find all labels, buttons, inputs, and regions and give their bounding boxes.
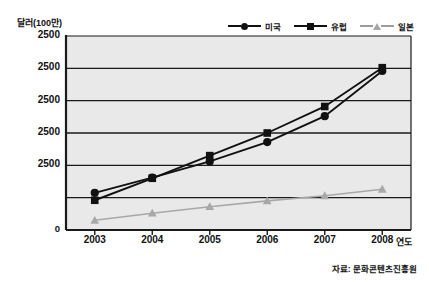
- y-tick-label-zero: 0: [20, 223, 60, 234]
- y-tick-label: 2500: [20, 126, 60, 137]
- y-tick-label: 2500: [20, 29, 60, 40]
- x-tick-label: 2008: [360, 234, 404, 245]
- y-tick-label: 2500: [20, 94, 60, 105]
- x-tick-label: 2005: [188, 234, 232, 245]
- chart-figure: 달러(100만) 미국 유럽 일본 자료: 문화콘텐츠진흥원 연도 250025…: [0, 0, 429, 282]
- x-tick-label: 2003: [73, 234, 117, 245]
- x-tick-label: 2004: [130, 234, 174, 245]
- x-tick-label: 2006: [245, 234, 289, 245]
- y-tick-label: 2500: [20, 158, 60, 169]
- source-note: 자료: 문화콘텐츠진흥원: [332, 262, 417, 274]
- y-tick-label: 2500: [20, 61, 60, 72]
- x-tick-label: 2007: [303, 234, 347, 245]
